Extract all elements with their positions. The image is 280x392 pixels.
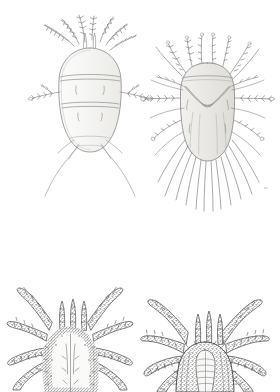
plate-canvas: m	[0, 0, 280, 392]
artist-mark: m	[264, 185, 268, 190]
idiosoma-outline-2	[180, 63, 234, 161]
illustration-plate: Plate of mites (Acari), dorsal views	[0, 0, 280, 392]
